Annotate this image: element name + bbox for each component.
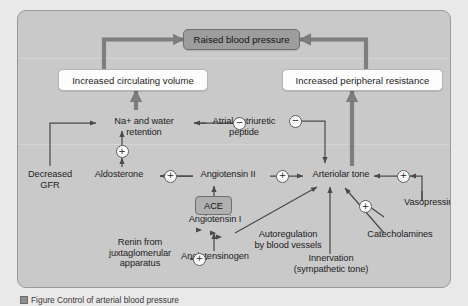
diagram-panel: Raised blood pressure Increased circulat… [17,10,451,288]
figure-container: Raised blood pressure Increased circulat… [0,0,468,306]
node-catecholamines: Catecholamines [355,229,445,240]
node-aldosterone: Aldosterone [76,169,162,180]
increased-circulating-volume-box: Increased circulating volume [58,69,208,91]
node-innervation: Innervation (sympathetic tone) [280,253,382,274]
node-vasopressin: Vasopressin [404,197,451,208]
sign-renin-stimulates-angiotensin-i: + [193,253,206,266]
sign-ang2-stimulates-arteriolar-tone: + [276,170,289,183]
caption-marker-icon [20,296,28,304]
sign-anp-inhibits-na-retention: − [233,117,246,130]
caption-text: Figure Control of arterial blood pressur… [31,295,179,305]
connector-layer [18,11,451,288]
sign-ang2-stimulates-aldosterone: + [164,170,177,183]
node-na-water-retention: Na+ and water retention [94,116,194,137]
node-decreased-gfr: Decreased GFR [18,169,82,190]
node-angiotensin-i: Angiotensin I [173,214,257,225]
raised-blood-pressure-box: Raised blood pressure [183,29,300,50]
node-autoregulation: Autoregulation by blood vessels [238,229,338,250]
increased-peripheral-resistance-box: Increased peripheral resistance [282,69,443,91]
node-angiotensin-ii: Angiotensin II [183,169,273,180]
sign-anp-inhibits-arteriolar-tone: − [289,115,302,128]
node-angiotensinogen: Angiotensinogen [168,251,262,262]
sign-aldosterone-stimulates-na-retention: + [116,145,129,158]
sign-vasopressin-stimulates-arteriolar-tone: + [397,170,410,183]
node-arteriolar-tone: Arteriolar tone [302,169,380,180]
sign-catecholamines-stimulate-arteriolar-tone: + [359,200,372,213]
figure-caption: Figure Control of arterial blood pressur… [20,295,450,306]
ace-box: ACE [195,196,232,215]
